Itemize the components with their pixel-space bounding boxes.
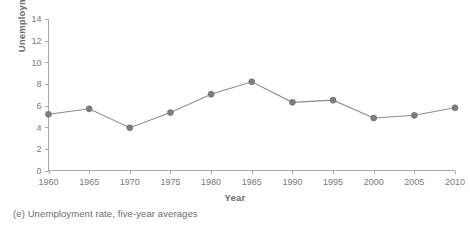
y-tick-label: 2 <box>36 144 41 154</box>
data-point-marker <box>371 115 377 121</box>
data-point-marker <box>86 106 92 112</box>
x-axis-label: Year <box>0 192 470 203</box>
data-point-markers <box>45 79 458 131</box>
data-point-marker <box>289 99 295 105</box>
x-tick-label: 1970 <box>120 177 140 187</box>
y-tick-label: 6 <box>36 101 41 111</box>
x-tick-label: 2010 <box>445 177 465 187</box>
data-point-marker <box>452 105 458 111</box>
unemployment-rate-line <box>49 82 456 128</box>
x-tick-label: 1995 <box>323 177 343 187</box>
x-tick-label: 1965 <box>79 177 99 187</box>
y-tick-label: 0 <box>36 166 41 176</box>
y-tick-label: 4 <box>36 123 41 133</box>
x-tick-label: 1990 <box>282 177 302 187</box>
figure-caption: (e) Unemployment rate, five-year average… <box>13 208 198 219</box>
x-axis: 1960196519701975198019851990199520002005… <box>38 171 465 187</box>
x-tick-group: 1960196519701975198019851990199520002005… <box>38 171 465 187</box>
data-point-marker <box>167 110 173 116</box>
data-point-marker <box>411 112 417 118</box>
x-tick-label: 1960 <box>38 177 58 187</box>
line-chart: 02468101214 1960196519701975198019851990… <box>0 0 470 200</box>
data-point-marker <box>208 91 214 97</box>
chart-plot-area: 02468101214 1960196519701975198019851990… <box>0 0 470 200</box>
data-point-marker <box>330 97 336 103</box>
figure: 02468101214 1960196519701975198019851990… <box>0 0 470 231</box>
x-tick-label: 1985 <box>242 177 262 187</box>
x-tick-label: 2005 <box>404 177 424 187</box>
x-tick-label: 1975 <box>160 177 180 187</box>
data-point-marker <box>127 125 133 131</box>
data-point-marker <box>45 111 51 117</box>
y-axis-label: Unemployment Rate (%) <box>16 0 36 96</box>
y-tick-label: 8 <box>36 79 41 89</box>
x-tick-label: 2000 <box>364 177 384 187</box>
x-tick-label: 1980 <box>201 177 221 187</box>
data-point-marker <box>249 79 255 85</box>
